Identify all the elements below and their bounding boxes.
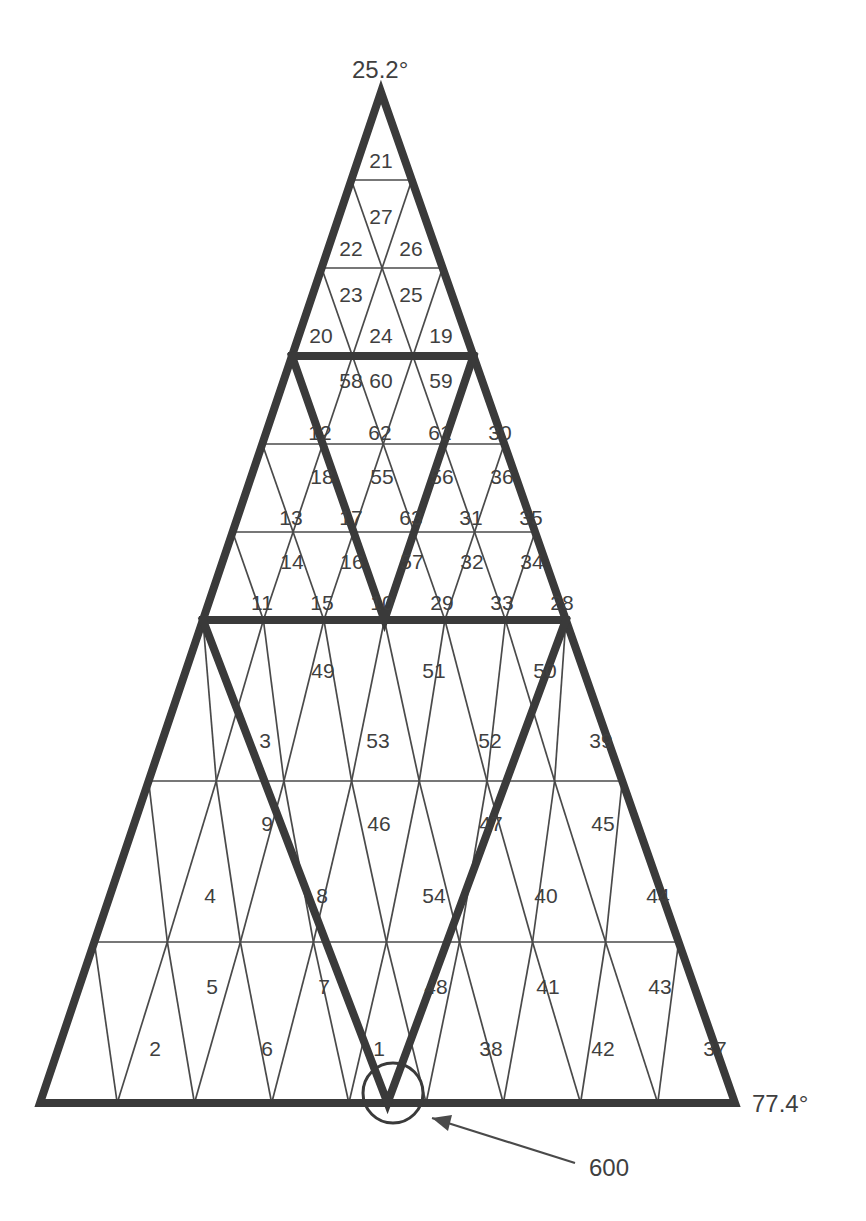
diag-right [240, 942, 271, 1103]
cell-number-28: 28 [550, 591, 573, 614]
diag-left [284, 620, 324, 781]
cell-number-57: 57 [400, 550, 423, 573]
cell-number-21: 21 [369, 149, 392, 172]
diag-left [606, 781, 623, 942]
diag-right [352, 781, 387, 942]
diag-left [117, 942, 167, 1103]
cell-number-6: 6 [261, 1037, 273, 1060]
cell-number-13: 13 [279, 506, 302, 529]
diag-right [445, 620, 487, 781]
cell-number-10: 10 [370, 591, 393, 614]
cell-number-23: 23 [339, 283, 362, 306]
cell-number-18: 18 [310, 465, 333, 488]
cell-number-17: 17 [339, 506, 362, 529]
apex-angle-label: 25.2° [352, 56, 408, 83]
diag-right [324, 620, 352, 781]
cell-number-34: 34 [520, 550, 544, 573]
cell-number-8: 8 [316, 884, 328, 907]
cell-number-5: 5 [206, 975, 218, 998]
diag-right [533, 942, 581, 1103]
cell-number-61: 61 [428, 421, 451, 444]
cell-number-58: 58 [339, 369, 362, 392]
cell-number-43: 43 [648, 975, 671, 998]
diag-right [216, 781, 240, 942]
cell-number-49: 49 [311, 659, 334, 682]
cell-number-30: 30 [488, 421, 511, 444]
cell-number-39: 39 [589, 729, 612, 752]
diag-right [149, 781, 168, 942]
cell-number-56: 56 [430, 465, 453, 488]
cell-number-20: 20 [309, 324, 332, 347]
diag-right [384, 620, 419, 781]
cell-number-19: 19 [429, 324, 452, 347]
cell-number-41: 41 [536, 975, 559, 998]
diag-right [263, 620, 284, 781]
diag-left [426, 942, 459, 1103]
diag-right [460, 942, 504, 1103]
cell-number-labels: 2127222623252024195860591262613018555636… [149, 149, 727, 1060]
cell-number-4: 4 [204, 884, 216, 907]
cell-number-54: 54 [422, 884, 446, 907]
diag-left [167, 781, 216, 942]
cell-number-7: 7 [318, 975, 330, 998]
diag-left [503, 942, 532, 1103]
cell-number-52: 52 [478, 729, 501, 752]
cell-number-53: 53 [366, 729, 389, 752]
cell-number-29: 29 [430, 591, 453, 614]
cell-number-12: 12 [308, 421, 331, 444]
callout-arrow-line [432, 1118, 575, 1163]
diag-left [386, 781, 419, 942]
cell-number-37: 37 [703, 1037, 726, 1060]
cell-number-51: 51 [422, 659, 445, 682]
cell-number-62: 62 [368, 421, 391, 444]
callout-label: 600 [589, 1154, 629, 1181]
middle-section-v-boundary [292, 356, 473, 620]
cell-number-63: 63 [399, 506, 422, 529]
cell-number-48: 48 [424, 975, 447, 998]
cell-number-3: 3 [259, 729, 271, 752]
diag-right [555, 781, 606, 942]
diag-left [352, 620, 385, 781]
cell-number-38: 38 [479, 1037, 502, 1060]
cell-number-26: 26 [399, 237, 422, 260]
cell-number-47: 47 [479, 812, 502, 835]
cell-number-27: 27 [369, 205, 392, 228]
cell-number-50: 50 [533, 659, 556, 682]
cell-number-42: 42 [591, 1037, 614, 1060]
cell-number-36: 36 [490, 465, 513, 488]
cell-number-15: 15 [310, 591, 333, 614]
cell-number-32: 32 [460, 550, 483, 573]
diag-left [658, 942, 679, 1103]
cell-number-14: 14 [280, 550, 304, 573]
cell-number-2: 2 [149, 1037, 161, 1060]
cell-number-1: 1 [373, 1037, 385, 1060]
cell-number-59: 59 [429, 369, 452, 392]
diag-left [487, 620, 505, 781]
cell-number-31: 31 [459, 506, 482, 529]
cell-number-9: 9 [261, 812, 273, 835]
cell-number-22: 22 [339, 237, 362, 260]
diag-left [272, 942, 314, 1103]
cell-number-46: 46 [367, 812, 390, 835]
cell-number-33: 33 [490, 591, 513, 614]
diagram-canvas: 2127222623252024195860591262613018555636… [0, 0, 866, 1221]
diag-right [606, 942, 658, 1103]
cell-number-60: 60 [369, 369, 392, 392]
cell-number-25: 25 [399, 283, 422, 306]
callout-arrow-head [432, 1115, 452, 1131]
cell-number-24: 24 [369, 324, 393, 347]
diag-right [167, 942, 194, 1103]
cell-number-44: 44 [646, 884, 670, 907]
cell-number-55: 55 [370, 465, 393, 488]
triangular-mesh-svg: 2127222623252024195860591262613018555636… [0, 0, 866, 1221]
cell-number-35: 35 [519, 506, 542, 529]
cell-number-11: 11 [251, 591, 273, 614]
cell-number-40: 40 [534, 884, 557, 907]
diag-left [194, 942, 240, 1103]
cell-number-45: 45 [591, 812, 614, 835]
diag-left [533, 781, 555, 942]
diag-left [419, 620, 445, 781]
base-angle-label: 77.4° [752, 1090, 808, 1117]
diag-left [581, 942, 606, 1103]
cell-number-16: 16 [340, 550, 363, 573]
